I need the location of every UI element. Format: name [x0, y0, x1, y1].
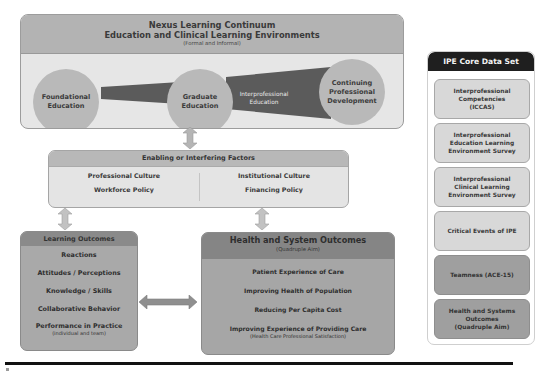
outcome-reactions: Reactions — [21, 251, 137, 259]
card-line: Outcomes — [449, 315, 515, 323]
ipe-card-health-systems-outcomes: Health and Systems Outcomes (Quadruple A… — [434, 299, 530, 339]
ipe-card-critical-events: Critical Events of IPE — [434, 211, 530, 251]
outcome-collaborative-behavior: Collaborative Behavior — [21, 305, 137, 313]
card-line: (Quadruple Aim) — [449, 323, 515, 331]
factor-financing-policy: Financing Policy — [204, 183, 344, 197]
learning-outcomes-header: Learning Outcomes — [21, 232, 137, 246]
card-line: Environment Survey — [448, 191, 515, 199]
card-line: Competencies — [453, 95, 510, 103]
outcome-provider-experience-note: (Health Care Professional Satisfaction) — [202, 333, 394, 340]
stage-continuing-professional-development: Continuing Professional Development — [319, 59, 385, 125]
enabling-interfering-factors-panel: Enabling or Interfering Factors Professi… — [48, 150, 349, 208]
card-line: (ICCAS) — [453, 103, 510, 111]
card-line: Education Learning — [448, 139, 515, 147]
bidirectional-arrow-icon — [183, 127, 197, 149]
page-mark — [6, 368, 9, 371]
nexus-subtitle: (Formal and Informal) — [21, 40, 403, 47]
card-line: Interprofessional — [448, 131, 515, 139]
outcome-attitudes-perceptions: Attitudes / Perceptions — [21, 269, 137, 277]
outcome-knowledge-skills: Knowledge / Skills — [21, 287, 137, 295]
horizontal-rule — [5, 362, 513, 365]
health-system-outcomes-panel: Health and System Outcomes (Quadruple Ai… — [201, 232, 395, 355]
outcome-population-health: Improving Health of Population — [202, 287, 394, 295]
outcome-patient-experience: Patient Experience of Care — [202, 268, 394, 276]
stage-graduate-education: Graduate Education — [167, 69, 233, 129]
nexus-header: Nexus Learning Continuum Education and C… — [21, 15, 403, 54]
card-line: Interprofessional — [453, 87, 510, 95]
nexus-title-line2: Education and Clinical Learning Environm… — [21, 30, 403, 40]
card-line: Health and Systems — [449, 307, 515, 315]
bidirectional-horizontal-arrow-icon — [139, 295, 197, 309]
learning-outcomes-panel: Learning Outcomes Reactions Attitudes / … — [20, 231, 138, 351]
enabling-right-column: Institutional Culture Financing Policy — [204, 169, 344, 197]
health-outcomes-subtitle: (Quadruple Aim) — [202, 246, 394, 253]
card-line: Interprofessional — [448, 175, 515, 183]
factor-workforce-policy: Workforce Policy — [54, 183, 194, 197]
stage-label: Foundational Education — [38, 93, 94, 111]
ipe-card-clinical-learning-environment: Interprofessional Clinical Learning Envi… — [434, 167, 530, 207]
outcome-performance-in-practice: Performance in Practice — [21, 322, 137, 330]
ipe-card-iccas: Interprofessional Competencies (ICCAS) — [434, 79, 530, 119]
column-divider — [199, 173, 200, 201]
health-outcomes-header: Health and System Outcomes (Quadruple Ai… — [202, 233, 394, 259]
enabling-header: Enabling or Interfering Factors — [49, 151, 348, 167]
bidirectional-arrow-icon — [255, 208, 269, 230]
nexus-learning-continuum-panel: Nexus Learning Continuum Education and C… — [20, 14, 404, 129]
stage-label: Graduate Education — [175, 93, 225, 111]
outcome-performance-note: (individual and team) — [21, 330, 137, 337]
factor-institutional-culture: Institutional Culture — [204, 169, 344, 183]
ipe-core-data-set-panel: IPE Core Data Set Interprofessional Comp… — [427, 51, 535, 345]
card-line: Environment Survey — [448, 147, 515, 155]
ipe-card-education-learning-environment: Interprofessional Education Learning Env… — [434, 123, 530, 163]
ipe-core-header: IPE Core Data Set — [428, 52, 534, 71]
factor-professional-culture: Professional Culture — [54, 169, 194, 183]
stage-foundational-education: Foundational Education — [33, 69, 99, 129]
outcome-provider-experience: Improving Experience of Providing Care — [202, 325, 394, 333]
bidirectional-arrow-icon — [58, 208, 72, 230]
enabling-left-column: Professional Culture Workforce Policy — [54, 169, 194, 197]
nexus-title: Nexus Learning Continuum — [21, 20, 403, 30]
card-line: Clinical Learning — [448, 183, 515, 191]
stage-label: Continuing Professional Development — [325, 79, 379, 106]
ipe-card-teamness: Teamness (ACE-15) — [434, 255, 530, 295]
stage-interprofessional-education: Interprofessional Education — [233, 90, 295, 106]
card-line: Critical Events of IPE — [447, 227, 516, 235]
health-outcomes-title: Health and System Outcomes — [202, 235, 394, 246]
outcome-per-capita-cost: Reducing Per Capita Cost — [202, 306, 394, 314]
card-line: Teamness (ACE-15) — [450, 271, 514, 279]
